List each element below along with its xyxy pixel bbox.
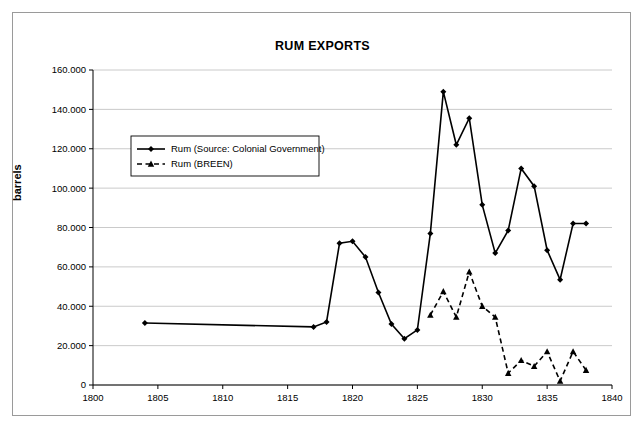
data-point-marker <box>453 142 459 148</box>
data-point-marker <box>440 288 446 294</box>
data-point-marker <box>518 357 524 363</box>
x-tick-label: 1835 <box>537 392 558 403</box>
x-tick-label: 1830 <box>472 392 493 403</box>
data-point-marker <box>466 115 472 121</box>
y-tick-label: 20.000 <box>57 340 86 351</box>
legend-label: Rum (BREEN) <box>171 158 233 169</box>
data-point-marker <box>324 319 330 325</box>
chart-page: RUM EXPORTS barrels 020.00040.00060.0008… <box>0 0 643 428</box>
series-line-1 <box>430 272 586 381</box>
data-point-marker <box>311 324 317 330</box>
data-point-marker <box>453 314 459 320</box>
x-tick-label: 1840 <box>601 392 622 403</box>
y-tick-label: 40.000 <box>57 301 86 312</box>
x-tick-label: 1810 <box>212 392 233 403</box>
data-point-marker <box>570 221 576 227</box>
x-tick-label: 1805 <box>147 392 168 403</box>
data-point-marker <box>375 289 381 295</box>
y-tick-label: 120.000 <box>52 143 86 154</box>
x-tick-label: 1800 <box>82 392 103 403</box>
chart-frame: RUM EXPORTS barrels 020.00040.00060.0008… <box>12 12 631 416</box>
legend-box <box>131 136 319 176</box>
y-tick-label: 100.000 <box>52 183 86 194</box>
data-point-marker <box>557 378 563 384</box>
x-tick-label: 1820 <box>342 392 363 403</box>
data-point-marker <box>583 221 589 227</box>
y-tick-label: 140.000 <box>52 104 86 115</box>
data-point-marker <box>337 240 343 246</box>
data-point-marker <box>440 89 446 95</box>
y-tick-label: 60.000 <box>57 261 86 272</box>
plot-area: 020.00040.00060.00080.000100.000120.0001… <box>13 13 632 417</box>
y-tick-label: 160.000 <box>52 64 86 75</box>
data-point-marker <box>544 247 550 253</box>
data-point-marker <box>479 202 485 208</box>
data-point-marker <box>427 230 433 236</box>
y-tick-label: 0 <box>81 379 86 390</box>
data-point-marker <box>466 268 472 274</box>
legend-label: Rum (Source: Colonial Government) <box>171 143 325 154</box>
data-point-marker <box>557 277 563 283</box>
data-point-marker <box>544 348 550 354</box>
x-tick-label: 1825 <box>407 392 428 403</box>
x-tick-label: 1815 <box>277 392 298 403</box>
data-point-marker <box>142 320 148 326</box>
y-tick-label: 80.000 <box>57 222 86 233</box>
series-line-0 <box>145 92 586 339</box>
data-point-marker <box>570 348 576 354</box>
